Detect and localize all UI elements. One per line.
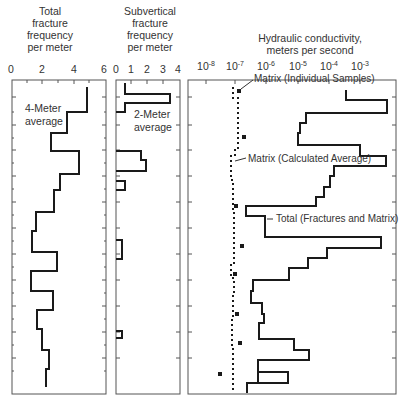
p3-matrix-average-line (231, 87, 238, 393)
p2-segment-3 (116, 181, 125, 190)
p2-top-ticks (131, 80, 163, 84)
p2-annotation: 2-Meter average (134, 108, 172, 134)
p2-segment-2 (116, 151, 146, 171)
p1-4m-average-line (31, 87, 87, 387)
p3-annotation-average: Matrix (Calculated Average) (248, 153, 371, 164)
p2-segment-4 (116, 240, 122, 259)
p1-annotation: 4-Meter average (25, 102, 63, 128)
chart-canvas (0, 0, 403, 400)
side-ticks (12, 97, 396, 371)
p3-annotation-individual: Matrix (Individual Samples) (254, 73, 375, 84)
p1-top-ticks (27, 80, 89, 84)
p3-annotation-total: Total (Fractures and Matrix) (276, 213, 398, 224)
p3-individual-samples (218, 89, 246, 376)
leader-lines (235, 80, 273, 219)
p3-total-line (246, 90, 387, 383)
p3-total-line-bottom (247, 383, 258, 393)
